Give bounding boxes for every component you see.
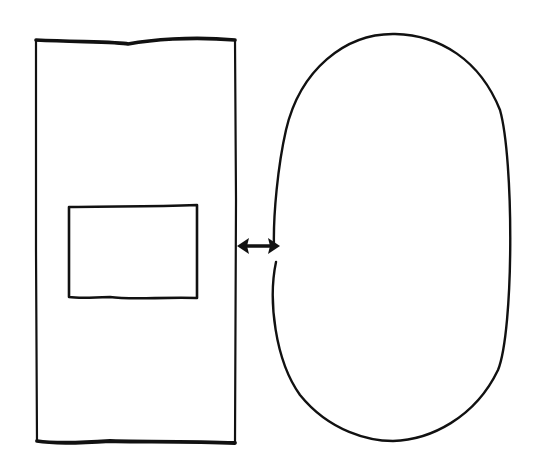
inner-rectangle	[69, 205, 197, 298]
ellipse	[273, 34, 510, 441]
diagram-canvas	[0, 0, 540, 466]
outer-rectangle	[36, 38, 236, 443]
diagram-svg	[0, 0, 540, 466]
